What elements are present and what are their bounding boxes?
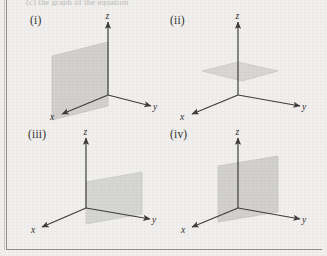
panel-iii: (iii) z y x <box>20 126 165 242</box>
panel-ii-label: (ii) <box>170 14 185 26</box>
panel-i-y-label: y <box>152 102 158 112</box>
panel-iii-diagram: z y x <box>20 126 165 242</box>
plane-ii <box>202 62 278 81</box>
clipped-header-text: (c) the graph of the equation <box>26 0 286 6</box>
panel-i: (i) z y x <box>20 10 165 122</box>
panel-ii-x-axis <box>192 95 238 114</box>
panel-iv-diagram: z y x <box>162 126 314 242</box>
panel-i-z-label: z <box>105 11 110 21</box>
panel-iv-y-label: y <box>301 215 307 225</box>
panel-iv: (iv) z y x <box>162 126 314 242</box>
panel-ii-y-axis <box>238 95 300 106</box>
panel-ii-y-label: y <box>301 102 307 112</box>
page-rule-bottom-light <box>6 251 322 252</box>
figure-page: (c) the graph of the equation (i) z y x <box>0 0 327 256</box>
panel-ii-diagram: z y x <box>162 10 314 122</box>
panel-i-label: (i) <box>30 14 41 26</box>
plane-i <box>52 42 108 120</box>
panel-iv-z-label: z <box>235 127 240 137</box>
panel-ii-x-label: x <box>179 112 185 122</box>
panel-iii-label: (iii) <box>28 128 46 140</box>
panel-iv-x-label: x <box>180 225 186 235</box>
panel-ii-z-label: z <box>235 11 240 21</box>
panel-iii-z-label: z <box>83 127 88 137</box>
page-rule-left-light <box>4 0 5 250</box>
panel-i-y-axis <box>108 95 151 106</box>
panel-iii-x-label: x <box>30 225 36 235</box>
panel-i-diagram: z y x <box>20 10 165 122</box>
page-rule-bottom <box>6 249 322 250</box>
panel-i-x-label: x <box>49 112 55 122</box>
panel-iii-x-axis <box>42 208 86 227</box>
page-rule-left <box>6 0 7 250</box>
panel-ii: (ii) z y x <box>162 10 314 122</box>
panel-iv-label: (iv) <box>170 128 187 140</box>
panel-iii-y-label: y <box>151 215 157 225</box>
